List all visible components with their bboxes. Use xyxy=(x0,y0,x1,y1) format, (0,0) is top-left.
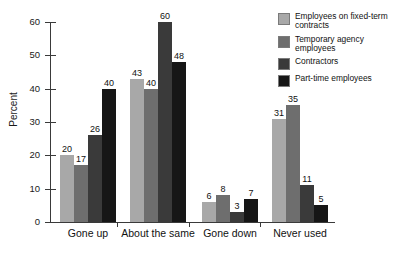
bar-group: 43406048 xyxy=(130,22,186,222)
legend-swatch-icon xyxy=(278,36,290,48)
bar: 31 xyxy=(272,119,286,222)
y-tick-mark xyxy=(45,222,56,223)
legend-swatch-icon xyxy=(278,58,290,70)
legend-item-label: Temporary agency employees xyxy=(295,35,402,54)
bar: 6 xyxy=(202,202,216,222)
bar-group: 6837 xyxy=(202,22,258,222)
bar-group: 20172640 xyxy=(60,22,116,222)
y-tick-label: 0 xyxy=(14,217,40,227)
legend-item: Employees on fixed-term contracts xyxy=(278,12,402,31)
bar-value-label: 3 xyxy=(234,202,239,211)
bar-value-label: 6 xyxy=(206,192,211,201)
x-axis-separator-tick xyxy=(189,222,190,227)
legend-item-label: Contractors xyxy=(295,57,338,66)
legend-item: Part-time employees xyxy=(278,74,402,87)
bar-value-label: 7 xyxy=(248,189,253,198)
legend-item-label: Employees on fixed-term contracts xyxy=(295,12,402,31)
bar-value-label: 5 xyxy=(318,195,323,204)
x-axis-separator-tick xyxy=(260,222,261,227)
y-tick-label: 60 xyxy=(14,17,40,27)
bar: 60 xyxy=(158,22,172,222)
bar-chart: Percent 0102030405060 20172640Gone up434… xyxy=(0,0,402,263)
x-axis-separator-tick xyxy=(117,222,118,227)
bar: 11 xyxy=(300,185,314,222)
bar-value-label: 35 xyxy=(288,95,298,104)
legend-item-label: Part-time employees xyxy=(295,74,372,83)
y-tick-label: 20 xyxy=(14,150,40,160)
bar: 35 xyxy=(286,105,300,222)
bar-value-label: 11 xyxy=(302,175,311,184)
bar: 8 xyxy=(216,195,230,222)
bar-value-label: 31 xyxy=(274,109,284,118)
bar-value-label: 43 xyxy=(132,69,142,78)
x-axis-line xyxy=(50,222,335,223)
bar-value-label: 60 xyxy=(160,12,170,21)
legend-swatch-icon xyxy=(278,75,290,87)
y-tick-label: 30 xyxy=(14,117,40,127)
bar-value-label: 48 xyxy=(174,52,184,61)
bar: 26 xyxy=(88,135,102,222)
bar-value-label: 26 xyxy=(90,125,100,134)
bar: 40 xyxy=(102,89,116,222)
y-tick-label: 10 xyxy=(14,184,40,194)
legend-swatch-icon xyxy=(278,13,290,25)
bar-value-label: 40 xyxy=(146,79,156,88)
bar: 20 xyxy=(60,155,74,222)
chart-legend: Employees on fixed-term contractsTempora… xyxy=(278,12,402,91)
bar: 48 xyxy=(172,62,186,222)
x-category-label: Never used xyxy=(250,228,350,239)
bar-value-label: 8 xyxy=(220,185,225,194)
legend-item: Contractors xyxy=(278,57,402,70)
y-tick-label: 40 xyxy=(14,84,40,94)
bar: 7 xyxy=(244,199,258,222)
bar: 17 xyxy=(74,165,88,222)
bar-value-label: 17 xyxy=(76,155,86,164)
bar: 40 xyxy=(144,89,158,222)
bar: 3 xyxy=(230,212,244,222)
legend-item: Temporary agency employees xyxy=(278,35,402,54)
bar: 5 xyxy=(314,205,328,222)
y-tick-label: 50 xyxy=(14,50,40,60)
bar-value-label: 40 xyxy=(104,79,114,88)
bar: 43 xyxy=(130,79,144,222)
bar-value-label: 20 xyxy=(62,145,72,154)
